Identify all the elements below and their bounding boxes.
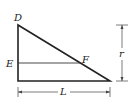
r-arrow-bottom-icon xyxy=(121,77,124,81)
r-arrow-top-icon xyxy=(121,25,124,29)
label-d: D xyxy=(13,12,22,23)
l-arrow-right-icon xyxy=(106,91,110,94)
l-arrow-left-icon xyxy=(18,91,22,94)
triangle-diagram: D E F r L xyxy=(0,0,135,108)
label-l: L xyxy=(59,86,67,97)
label-e: E xyxy=(5,58,14,69)
right-triangle xyxy=(18,25,110,81)
label-f: F xyxy=(81,54,90,65)
